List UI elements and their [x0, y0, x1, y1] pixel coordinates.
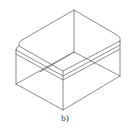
- top-face-edges: [22, 10, 120, 41]
- figure-caption: b): [0, 113, 130, 123]
- left-fillet: [16, 46, 19, 50]
- bottom-edges: [16, 76, 120, 110]
- top-front-edges: [19, 40, 120, 71]
- inner-band-line: [40, 52, 74, 72]
- band-line-1: [16, 45, 120, 76]
